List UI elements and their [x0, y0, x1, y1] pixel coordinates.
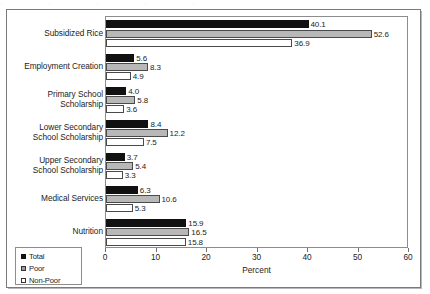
bar-line: 15.9 — [106, 219, 407, 227]
bar-value-label: 3.3 — [123, 171, 136, 180]
category-label-line: Nutrition — [12, 226, 103, 236]
category-label: Medical Services — [12, 193, 103, 203]
legend-swatch-nonpoor — [21, 278, 26, 283]
category-label-line: Upper Secondary — [12, 155, 103, 165]
bar-value-label: 8.3 — [148, 62, 161, 71]
legend-label: Poor — [29, 264, 44, 273]
chart-screenshot: · · · · · Subsidized RiceEmployment Crea… — [0, 0, 430, 294]
bar-line: 15.8 — [106, 238, 407, 246]
bar-line: 16.5 — [106, 228, 407, 236]
x-axis-tick-label: 60 — [403, 252, 412, 262]
bar-line: 12.2 — [106, 129, 407, 137]
bar-line: 3.7 — [106, 153, 407, 161]
bar-group: 5.68.34.9 — [106, 50, 407, 83]
bar-value-label: 15.9 — [186, 219, 203, 228]
bar-group: 4.05.83.6 — [106, 83, 407, 116]
legend-label: Non-Poor — [29, 276, 60, 285]
bar-total — [106, 20, 309, 28]
bar-value-label: 36.9 — [292, 38, 309, 47]
bar-line: 52.6 — [106, 30, 407, 38]
bar-line: 5.8 — [106, 96, 407, 104]
bar-value-label: 5.3 — [133, 204, 146, 213]
category-label-line: Employment Creation — [12, 61, 103, 71]
bar-nonpoor — [106, 39, 292, 47]
bar-poor — [106, 162, 133, 170]
bar-line: 36.9 — [106, 39, 407, 47]
bar-nonpoor — [106, 138, 144, 146]
bar-value-label: 8.4 — [148, 119, 161, 128]
scan-artifact: · · · · · — [0, 0, 430, 8]
bar-group: 8.412.27.5 — [106, 116, 407, 149]
category-label-line: Primary School — [12, 89, 103, 99]
bar-line: 3.3 — [106, 171, 407, 179]
legend-item: Total — [21, 251, 81, 262]
legend-swatch-total — [21, 254, 26, 259]
bar-poor — [106, 96, 135, 104]
bar-value-label: 10.6 — [160, 195, 177, 204]
legend-item: Poor — [21, 263, 81, 274]
bar-value-label: 4.9 — [131, 71, 144, 80]
bar-total — [106, 54, 134, 62]
bar-nonpoor — [106, 204, 133, 212]
category-label: Employment Creation — [12, 61, 103, 71]
category-label: Subsidized Rice — [12, 28, 103, 38]
bar-line: 8.4 — [106, 120, 407, 128]
bar-value-label: 52.6 — [372, 29, 389, 38]
x-axis-tick-label: 50 — [353, 252, 362, 262]
bar-line: 3.6 — [106, 105, 407, 113]
bar-line: 5.6 — [106, 54, 407, 62]
bar-line: 5.3 — [106, 204, 407, 212]
bar-total — [106, 153, 125, 161]
bar-value-label: 12.2 — [168, 128, 185, 137]
bar-poor — [106, 63, 148, 71]
category-label-line: Medical Services — [12, 193, 103, 203]
bar-value-label: 3.7 — [125, 152, 138, 161]
bar-group: 15.916.515.8 — [106, 216, 407, 249]
category-label: Nutrition — [12, 226, 103, 236]
category-axis-labels: Subsidized RiceEmployment CreationPrimar… — [12, 16, 103, 248]
bar-value-label: 5.4 — [133, 162, 146, 171]
bar-poor — [106, 228, 189, 236]
bar-value-label: 3.6 — [124, 105, 137, 114]
plot-area: 40.152.636.95.68.34.94.05.83.68.412.27.5… — [105, 16, 408, 248]
bar-nonpoor — [106, 238, 186, 246]
category-label: Primary SchoolScholarship — [12, 89, 103, 109]
bar-total — [106, 120, 148, 128]
bar-line: 5.4 — [106, 162, 407, 170]
bar-value-label: 5.6 — [134, 53, 147, 62]
x-axis-tick-label: 10 — [151, 252, 160, 262]
bar-groups: 40.152.636.95.68.34.94.05.83.68.412.27.5… — [106, 17, 407, 247]
bar-line: 4.0 — [106, 87, 407, 95]
bar-line: 40.1 — [106, 20, 407, 28]
chart-legend: TotalPoorNon-Poor — [15, 247, 82, 285]
bar-nonpoor — [106, 105, 124, 113]
x-axis-tick-label: 30 — [252, 252, 261, 262]
x-axis-tick-label: 40 — [302, 252, 311, 262]
bar-poor — [106, 30, 372, 38]
category-label-line: Scholarship — [12, 99, 103, 109]
category-label: Upper SecondarySchool Scholarship — [12, 155, 103, 175]
bar-line: 10.6 — [106, 195, 407, 203]
category-label: Lower SecondarySchool Scholarship — [12, 122, 103, 142]
legend-swatch-poor — [21, 266, 26, 271]
bar-value-label: 5.8 — [135, 95, 148, 104]
bar-line: 8.3 — [106, 63, 407, 71]
bar-total — [106, 186, 138, 194]
legend-label: Total — [29, 252, 44, 261]
category-label-line: Lower Secondary — [12, 122, 103, 132]
bar-value-label: 7.5 — [144, 138, 157, 147]
x-axis-tick-label: 0 — [103, 252, 108, 262]
bar-poor — [106, 129, 168, 137]
bar-group: 6.310.65.3 — [106, 183, 407, 216]
legend-item: Non-Poor — [21, 275, 81, 286]
bar-group: 3.75.43.3 — [106, 150, 407, 183]
bar-poor — [106, 195, 160, 203]
bar-line: 6.3 — [106, 186, 407, 194]
bar-group: 40.152.636.9 — [106, 17, 407, 50]
bar-line: 7.5 — [106, 138, 407, 146]
bar-value-label: 15.8 — [186, 237, 203, 246]
bar-value-label: 40.1 — [309, 20, 326, 29]
x-axis-tick-labels: 0102030405060 — [105, 252, 408, 264]
bar-nonpoor — [106, 171, 123, 179]
category-label-line: School Scholarship — [12, 132, 103, 142]
